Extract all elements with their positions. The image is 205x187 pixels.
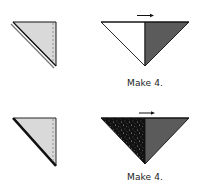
press-arrow-icon xyxy=(139,111,155,114)
step1-unit-triangle xyxy=(11,22,56,68)
step2-result-triangle xyxy=(101,111,189,164)
step2-caption: Make 4. xyxy=(127,172,163,182)
quilt-diagram xyxy=(0,0,205,187)
step1-result-triangle xyxy=(101,14,189,66)
step1-caption: Make 4. xyxy=(127,78,163,88)
step2-unit-triangle xyxy=(13,118,56,166)
press-arrow-icon xyxy=(137,14,154,17)
